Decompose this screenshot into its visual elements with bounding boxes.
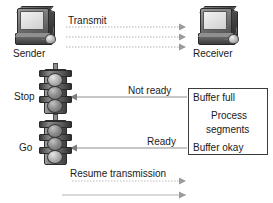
buffer-full-label: Buffer full	[193, 92, 235, 103]
buffer-okay-label: Buffer okay	[193, 142, 243, 153]
ready-label: Ready	[147, 136, 176, 147]
traffic-light-lamp-green	[47, 99, 63, 113]
traffic-light-lamp-red	[47, 73, 63, 87]
transmit-label: Transmit	[68, 15, 107, 26]
receiver-label: Receiver	[193, 48, 232, 59]
flow-control-diagram: Sender Receiver Stop Go Transmit No	[0, 0, 273, 203]
traffic-light-lamp-yellow	[47, 137, 63, 151]
traffic-light-icon-go	[38, 114, 72, 164]
resume-transmission-label: Resume transmission	[70, 168, 166, 179]
traffic-light-lamp-yellow	[47, 86, 63, 100]
go-label: Go	[19, 142, 32, 153]
traffic-light-lamp-red	[47, 124, 63, 138]
stop-label: Stop	[14, 91, 35, 102]
traffic-light-icon-stop	[38, 63, 72, 113]
mouse-icon	[228, 34, 239, 44]
mouse-icon	[45, 34, 56, 44]
computer-icon-receiver	[197, 6, 241, 48]
process-label: Process	[211, 110, 247, 121]
segments-label: segments	[206, 124, 249, 135]
not-ready-label: Not ready	[128, 85, 171, 96]
computer-icon-sender	[14, 6, 58, 48]
traffic-light-lamp-green	[47, 150, 63, 164]
sender-label: Sender	[13, 48, 45, 59]
